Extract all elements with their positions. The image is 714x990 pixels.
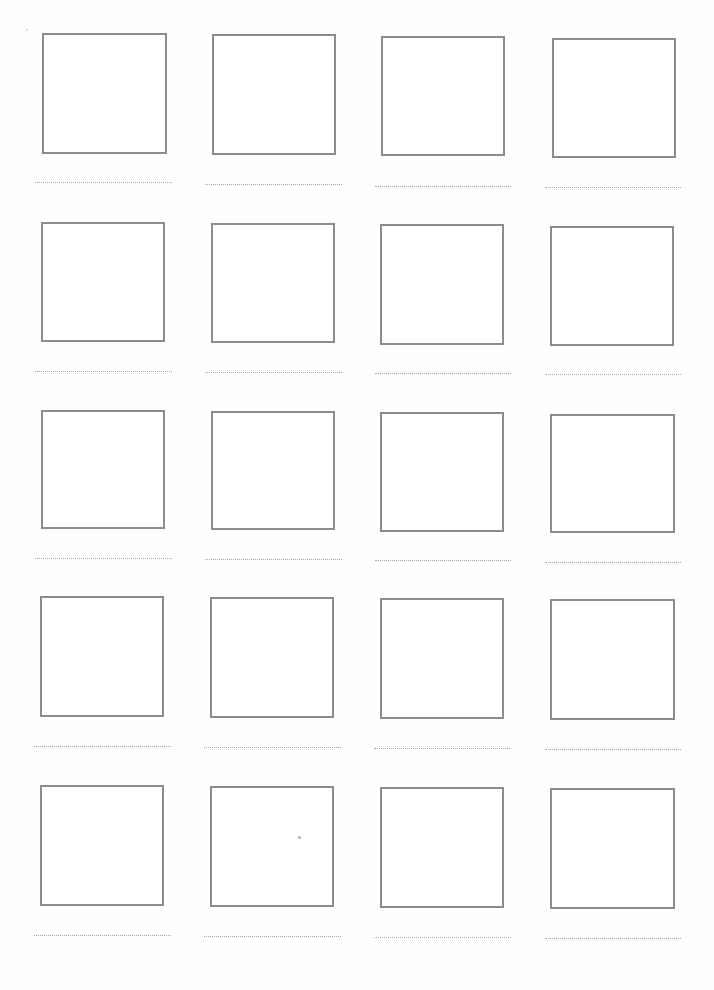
- label-dotted-line[interactable]: [545, 938, 681, 939]
- drawing-box: [380, 412, 504, 532]
- drawing-box: [212, 34, 336, 155]
- drawing-box: [42, 33, 167, 154]
- drawing-box: [210, 786, 334, 907]
- label-dotted-line[interactable]: [205, 184, 342, 185]
- label-dotted-line[interactable]: [204, 747, 341, 748]
- label-dotted-line[interactable]: [205, 559, 342, 560]
- drawing-box: [550, 414, 675, 533]
- pencil-dot: [298, 836, 301, 839]
- drawing-box: [211, 223, 335, 343]
- label-dotted-line[interactable]: [205, 372, 342, 373]
- label-dotted-line[interactable]: [375, 186, 511, 187]
- drawing-box: [380, 224, 504, 345]
- label-dotted-line[interactable]: [374, 937, 511, 938]
- label-dotted-line[interactable]: [545, 749, 681, 750]
- label-dotted-line[interactable]: [34, 746, 171, 747]
- drawing-box: [550, 599, 675, 720]
- label-dotted-line[interactable]: [35, 558, 172, 559]
- drawing-box: [210, 597, 334, 718]
- label-dotted-line[interactable]: [35, 371, 172, 372]
- drawing-box: [40, 785, 164, 906]
- drawing-box: [380, 787, 504, 908]
- label-dotted-line[interactable]: [545, 374, 681, 375]
- corner-speck: [26, 29, 28, 31]
- worksheet-page: [0, 0, 714, 990]
- drawing-box: [552, 38, 676, 158]
- label-dotted-line[interactable]: [34, 935, 171, 936]
- drawing-box: [211, 411, 335, 530]
- drawing-box: [381, 36, 505, 156]
- label-dotted-line[interactable]: [375, 560, 511, 561]
- drawing-box: [380, 598, 504, 719]
- drawing-box: [550, 226, 674, 346]
- label-dotted-line[interactable]: [35, 182, 172, 183]
- label-dotted-line[interactable]: [374, 748, 510, 749]
- drawing-box: [41, 222, 165, 342]
- label-dotted-line[interactable]: [545, 562, 681, 563]
- label-dotted-line[interactable]: [545, 187, 681, 188]
- drawing-box: [40, 596, 164, 717]
- drawing-box: [41, 410, 165, 529]
- drawing-box: [550, 788, 675, 909]
- label-dotted-line[interactable]: [204, 936, 341, 937]
- label-dotted-line[interactable]: [375, 373, 511, 374]
